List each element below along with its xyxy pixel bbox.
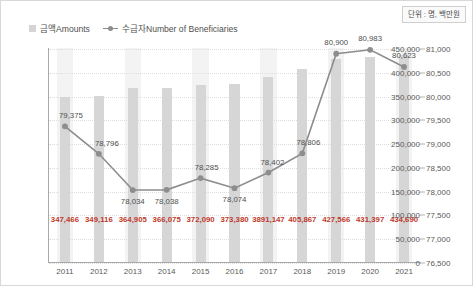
y-axis-right-tick-mark [420,263,425,264]
x-axis-tick: 2017 [260,267,278,276]
y-axis-right-tick: 80,500 [426,68,450,77]
y-axis-right-tick-mark [420,72,425,73]
line-marker[interactable] [96,151,102,157]
x-axis-tick: 2013 [124,267,142,276]
y-axis-right-tick: 81,000 [426,45,450,54]
line-marker[interactable] [266,170,272,176]
y-axis-right-tick-mark [420,191,425,192]
y-axis-right-tick: 79,500 [426,116,450,125]
legend-item-amounts[interactable]: 금액Amounts [29,22,90,34]
line-marker[interactable] [333,51,339,57]
chart-container: 단위 : 명, 백만원 금액Amounts 수급자Number of Benef… [0,0,473,286]
y-axis-right-tick: 79,000 [426,140,450,149]
bar-value-label: 3891,147 [252,215,285,224]
y-axis-right-tick-mark [420,96,425,97]
x-axis-tick: 2012 [90,267,108,276]
y-axis-left-tick: 100,000 [391,211,420,220]
y-axis-left-tick: 300,000 [391,116,420,125]
line-marker[interactable] [62,123,68,129]
y-axis-right-tick: 77,500 [426,211,450,220]
line-value-label: 78,285 [195,163,219,172]
bar-value-label: 366,075 [153,215,181,224]
line-path [65,50,404,190]
line-value-label: 80,900 [324,38,348,47]
line-marker[interactable] [299,150,305,156]
y-axis-right-tick: 76,500 [426,259,450,268]
line-swatch-icon [103,25,118,32]
x-axis-tick: 2015 [192,267,210,276]
legend-item-beneficiaries[interactable]: 수급자Number of Beneficiaries [103,22,238,34]
gridline [49,263,421,264]
y-axis-right-tick: 78,000 [426,187,450,196]
plot-area [48,48,421,263]
line-series [48,48,421,263]
bar-value-label: 427,566 [322,215,350,224]
y-axis-right-tick: 77,000 [426,235,450,244]
line-marker[interactable] [232,185,238,191]
bar-value-label: 349,116 [85,215,113,224]
y-axis-right-tick-mark [420,167,425,168]
x-axis-tick: 2021 [395,267,413,276]
y-axis-left-tick: 200,000 [391,163,420,172]
chart-legend: 금액Amounts 수급자Number of Beneficiaries [29,22,238,34]
line-value-label: 78,806 [296,138,320,147]
y-axis-right-tick-mark [420,120,425,121]
line-value-label: 79,375 [59,111,83,120]
unit-note-badge: 단위 : 명, 백만원 [402,6,466,23]
bar-swatch-icon [29,25,36,32]
y-axis-right-tick-mark [420,144,425,145]
x-axis-tick: 2020 [361,267,379,276]
bar-value-label: 373,380 [220,215,248,224]
line-marker[interactable] [367,47,373,53]
axis-line-bottom [48,262,421,263]
x-axis-tick: 2018 [293,267,311,276]
x-axis-tick: 2019 [327,267,345,276]
y-axis-left-tick: 350,000 [391,92,420,101]
line-marker[interactable] [164,187,170,193]
line-value-label: 78,796 [95,139,119,148]
line-marker[interactable] [130,187,136,193]
y-axis-left-tick: 450,000 [391,45,420,54]
y-axis-right-tick-mark [420,239,425,240]
line-value-label: 78,402 [260,158,284,167]
y-axis-right-tick-mark [420,215,425,216]
line-marker[interactable] [198,175,204,181]
legend-label-beneficiaries: 수급자Number of Beneficiaries [122,22,238,34]
y-axis-right-tick: 80,000 [426,92,450,101]
bar-value-label: 431,397 [356,215,384,224]
x-axis-tick: 2016 [226,267,244,276]
y-axis-right-tick: 78,500 [426,163,450,172]
bar-value-label: 405,867 [288,215,316,224]
y-axis-right-tick-mark [420,49,425,50]
x-axis-tick: 2014 [158,267,176,276]
y-axis-left-tick: 150,000 [391,187,420,196]
bar-value-label: 364,905 [119,215,147,224]
y-axis-left-tick: 250,000 [391,140,420,149]
line-value-label: 80,983 [358,34,382,43]
x-axis-tick: 2011 [56,267,73,276]
y-axis-left-tick: 50,000 [396,235,420,244]
line-value-label: 78,034 [121,197,145,206]
bar-value-label: 347,466 [51,215,79,224]
y-axis-left-tick: 400,000 [391,68,420,77]
line-value-label: 78,074 [223,195,247,204]
legend-label-amounts: 금액Amounts [40,22,90,34]
line-value-label: 78,038 [155,197,179,206]
axis-line-left [48,48,49,263]
bar-value-label: 372,090 [186,215,214,224]
